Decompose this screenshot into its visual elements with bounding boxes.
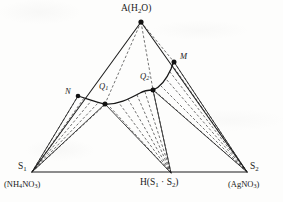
tie-S1-N [32, 96, 78, 172]
dash-s2-3 [166, 79, 247, 172]
formula-S2-prefix: (AgNO [228, 179, 254, 189]
node-dots [76, 19, 177, 106]
fan-from-S1 [32, 96, 106, 172]
fan-from-S2 [156, 62, 247, 172]
vertex-label-H-tail: ) [175, 177, 178, 187]
vertex-formula-S1: (NH4NO3) [4, 180, 40, 189]
ternary-phase-diagram: .solid{stroke:#1d1d1d;stroke-width:1.05;… [0, 0, 283, 202]
tie-S1-Q1 [32, 104, 105, 172]
curve-path [78, 62, 174, 104]
vertex-label-A-tail: O) [141, 3, 151, 13]
vertex-label-H-text: H(S [140, 177, 155, 187]
node-dot-Q1 [103, 102, 108, 107]
dash-s1-3 [32, 102, 99, 172]
fan-from-A [105, 22, 174, 104]
node-dot-Q2 [151, 88, 156, 93]
point-label-Q2: Q2 [140, 72, 149, 81]
edge-A-S2 [141, 22, 247, 172]
dash-h-3 [128, 99, 171, 173]
dash-s2-2 [161, 86, 247, 172]
dash-a-m [141, 22, 174, 62]
dash-s2-4 [170, 72, 247, 172]
dash-s1-2 [32, 100, 92, 172]
point-label-Q2-sub: 2 [146, 75, 149, 81]
point-label-Q1-sub: 1 [105, 85, 108, 91]
triangle-edges [32, 22, 247, 172]
vertex-label-A: A(H2O) [121, 4, 151, 14]
vertex-label-H-mid: · S [159, 177, 172, 187]
formula-S1-prefix: (NH [4, 179, 19, 189]
point-label-N: N [65, 87, 71, 96]
dash-a-q1 [105, 22, 141, 104]
vertex-label-S2: S2 [250, 162, 259, 172]
dash-h-5 [145, 92, 171, 173]
vertex-label-S2-sub: 2 [255, 165, 258, 172]
diagram-canvas: .solid{stroke:#1d1d1d;stroke-width:1.05;… [0, 0, 283, 202]
vertex-formula-S2: (AgNO3) [228, 180, 259, 189]
solubility-curve [78, 62, 174, 104]
vertex-dot-A [138, 19, 143, 24]
tie-H-Q1 [105, 104, 171, 173]
edge-A-S1 [32, 22, 141, 172]
formula-S2-suffix: ) [257, 179, 260, 189]
node-dot-N [76, 94, 81, 99]
point-label-M-text: M [180, 51, 187, 61]
formula-S1-suffix: ) [38, 179, 41, 189]
vertex-label-A-text: A(H [121, 3, 138, 13]
vertex-label-S1: S1 [18, 162, 27, 172]
point-label-N-text: N [65, 86, 71, 96]
point-label-M: M [180, 52, 187, 61]
formula-S1-mid: NO [22, 179, 34, 189]
point-label-Q1: Q1 [99, 82, 108, 91]
vertex-label-S1-sub: 1 [23, 165, 26, 172]
vertex-label-H: H(S1 · S2) [140, 178, 179, 188]
node-dot-M [172, 60, 177, 65]
